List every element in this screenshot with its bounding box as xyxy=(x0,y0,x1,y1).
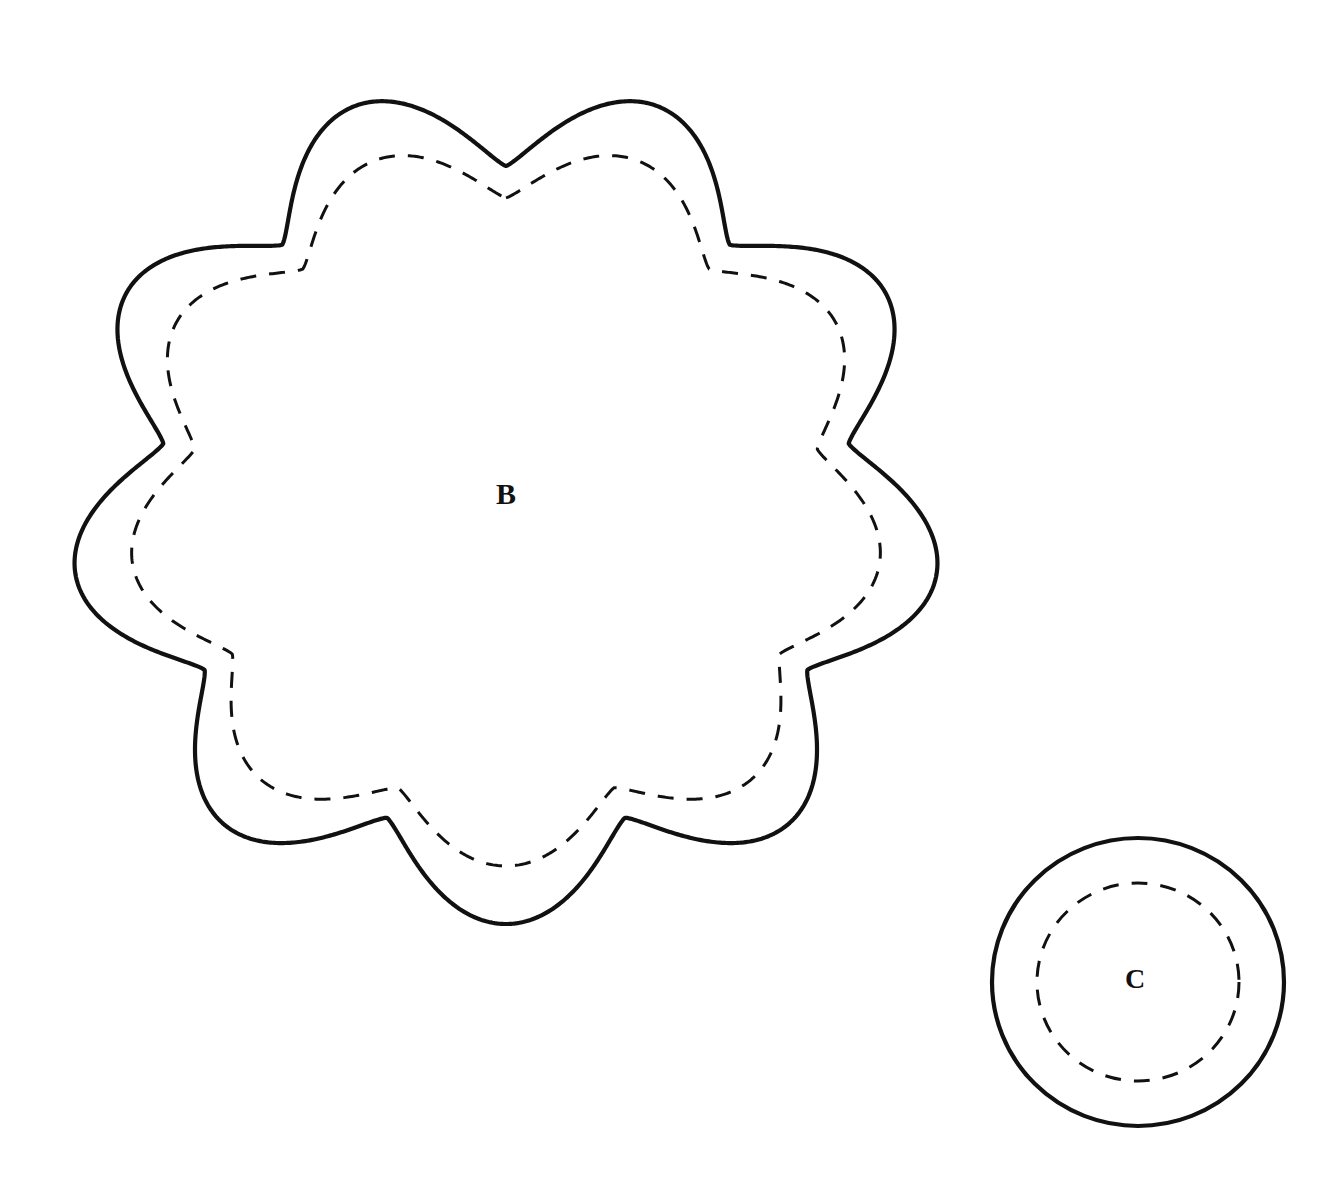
piece-c-group: C xyxy=(992,838,1284,1126)
pattern-sheet: B C xyxy=(0,0,1338,1198)
pattern-canvas: B C xyxy=(0,0,1338,1198)
piece-b-group: B xyxy=(75,101,938,924)
piece-b-stitch-line xyxy=(132,156,881,866)
piece-b-label: B xyxy=(496,477,516,510)
piece-c-label: C xyxy=(1125,963,1145,994)
piece-b-cut-line xyxy=(75,101,938,924)
